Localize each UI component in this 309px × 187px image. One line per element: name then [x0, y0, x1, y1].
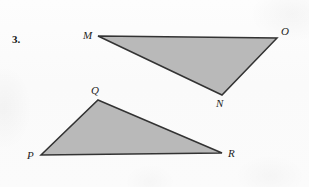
- vertex-label-q: Q: [91, 85, 99, 96]
- triangle-pqr-shape: [41, 100, 222, 155]
- vertex-label-n: N: [216, 98, 223, 109]
- vertex-label-o: O: [281, 26, 289, 37]
- geometry-figure: [0, 0, 309, 187]
- triangle-mno-shape: [98, 36, 277, 95]
- vertex-label-m: M: [83, 30, 92, 41]
- vertex-label-p: P: [27, 150, 34, 161]
- vertex-label-r: R: [228, 148, 235, 159]
- figure-page: 3. M O N Q P R: [0, 0, 309, 187]
